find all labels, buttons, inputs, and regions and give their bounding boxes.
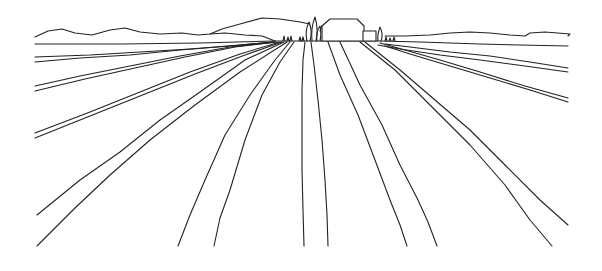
field-furrows (35, 42, 568, 246)
shrub (385, 37, 395, 41)
horizon-line (35, 41, 568, 46)
farmhouse (322, 19, 364, 41)
farmhouse-annex (363, 31, 376, 41)
shrub (283, 36, 304, 41)
field-drawing: Line drawing of plowed field furrows con… (0, 0, 602, 271)
cypress-tree (378, 27, 382, 41)
hills-left (35, 18, 310, 37)
landscape-illustration (0, 0, 602, 271)
cypress-tree (306, 22, 311, 41)
hills-left-lower (210, 33, 275, 41)
hills-right (385, 32, 570, 36)
